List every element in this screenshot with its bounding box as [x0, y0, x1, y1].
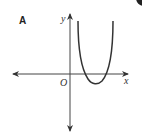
graph: y x O — [0, 0, 142, 137]
corner-shape — [136, 0, 142, 6]
x-axis-label: x — [123, 75, 129, 86]
y-axis-label: y — [60, 13, 66, 24]
origin-label: O — [60, 77, 67, 88]
